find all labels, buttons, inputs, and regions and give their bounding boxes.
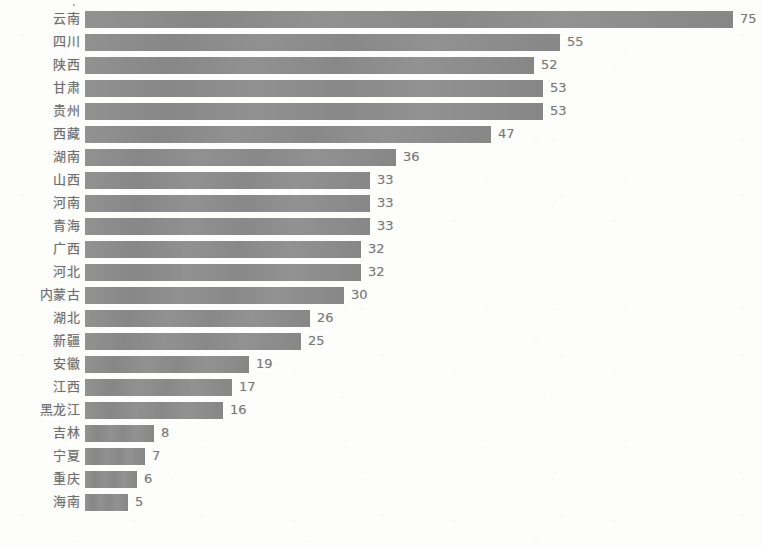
bar [85,126,491,143]
category-label: 甘肃 [53,77,80,100]
bar-value-label: 6 [144,468,152,491]
category-label: 宁夏 [53,445,80,468]
bar-row: 黑龙江16 [0,399,762,422]
category-label: 西藏 [53,123,80,146]
bar-row: 吉林8 [0,422,762,445]
bar-value-label: 5 [135,491,143,514]
bar-value-label: 26 [317,307,334,330]
bar-row: 河北32 [0,261,762,284]
bar-row: 贵州53 [0,100,762,123]
bar-value-label: 33 [377,169,394,192]
bar [85,264,361,281]
bar-value-label: 16 [230,399,247,422]
bar [85,379,232,396]
bar [85,310,310,327]
bar-value-label: 75 [740,8,757,31]
bar [85,425,154,442]
bar-value-label: 32 [368,238,385,261]
bar [85,402,223,419]
bar [85,356,249,373]
category-label: 山西 [53,169,80,192]
bar [85,103,543,120]
bar-value-label: 36 [403,146,420,169]
bar-row: 江西17 [0,376,762,399]
category-label: 湖南 [53,146,80,169]
bar-row: 湖南36 [0,146,762,169]
bar-value-label: 8 [161,422,169,445]
category-label: 贵州 [53,100,80,123]
category-label: 重庆 [53,468,80,491]
bar-row: 云南75 [0,8,762,31]
bar-row: 安徽19 [0,353,762,376]
bar-row: 西藏47 [0,123,762,146]
bar [85,172,370,189]
category-label: 吉林 [53,422,80,445]
bar [85,80,543,97]
bar-row: 四川55 [0,31,762,54]
category-label: 陕西 [53,54,80,77]
bar-value-label: 33 [377,215,394,238]
bar-row: 宁夏7 [0,445,762,468]
scan-speck [73,4,75,6]
category-label: 河南 [53,192,80,215]
category-label: 内蒙古 [40,284,81,307]
bar-row: 广西32 [0,238,762,261]
category-label: 广西 [53,238,80,261]
bar-value-label: 25 [308,330,325,353]
bar [85,471,137,488]
category-label: 海南 [53,491,80,514]
horizontal-bar-chart: 云南75四川55陕西52甘肃53贵州53西藏47湖南36山西33河南33青海33… [0,0,762,549]
category-label: 湖北 [53,307,80,330]
bar-row: 内蒙古30 [0,284,762,307]
bar [85,57,534,74]
bar-row: 湖北26 [0,307,762,330]
category-label: 安徽 [53,353,80,376]
category-label: 四川 [53,31,80,54]
category-label: 江西 [53,376,80,399]
bar-value-label: 33 [377,192,394,215]
bar [85,494,128,511]
bar-row: 海南5 [0,491,762,514]
bar [85,195,370,212]
bar-row: 重庆6 [0,468,762,491]
bar-row: 甘肃53 [0,77,762,100]
bar [85,333,301,350]
bar-value-label: 7 [152,445,160,468]
bar [85,34,560,51]
bar-value-label: 32 [368,261,385,284]
bar-value-label: 55 [567,31,584,54]
bar-row: 新疆25 [0,330,762,353]
bar-value-label: 53 [550,100,567,123]
bar-row: 青海33 [0,215,762,238]
bar-row: 河南33 [0,192,762,215]
bar-row: 山西33 [0,169,762,192]
bar-value-label: 53 [550,77,567,100]
category-label: 河北 [53,261,80,284]
bar [85,11,733,28]
category-label: 新疆 [53,330,80,353]
bar [85,218,370,235]
category-label: 青海 [53,215,80,238]
bar [85,241,361,258]
category-label: 云南 [53,8,80,31]
bar [85,149,396,166]
bar-value-label: 52 [541,54,558,77]
bar-value-label: 47 [498,123,515,146]
bar-row: 陕西52 [0,54,762,77]
bar [85,448,145,465]
bar-value-label: 17 [239,376,256,399]
bar-value-label: 30 [351,284,368,307]
bar [85,287,344,304]
bar-value-label: 19 [256,353,273,376]
category-label: 黑龙江 [40,399,81,422]
